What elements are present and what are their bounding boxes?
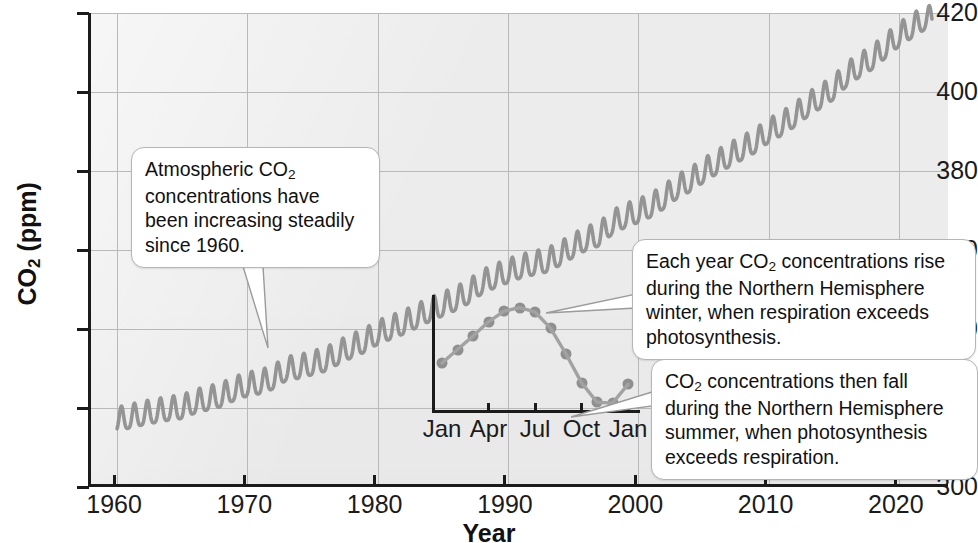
leader-rise — [546, 294, 636, 313]
leader-fall — [571, 392, 652, 417]
callout-fall: CO2 concentrations then fall during the … — [651, 359, 978, 480]
callout-fall-subscript: 2 — [694, 379, 702, 394]
callout-trend-text-2: concentrations have been increasing stea… — [145, 185, 354, 255]
callout-trend-subscript: 2 — [288, 167, 296, 182]
co2-concentration-figure: 300320340360380400420 CO2 (ppm) 19601970… — [0, 0, 978, 543]
callout-rise: Each year CO2 concentrations rise during… — [632, 239, 976, 360]
callout-rise-subscript: 2 — [768, 259, 776, 274]
callout-fall-text-2: concentrations then fall during the Nort… — [665, 370, 944, 468]
callout-trend: Atmospheric CO2 concentrations have been… — [131, 147, 380, 268]
callout-fall-text-1: CO — [665, 370, 694, 392]
callout-trend-text-1: Atmospheric CO — [145, 158, 288, 180]
callout-rise-text-1: Each year CO — [646, 250, 768, 272]
